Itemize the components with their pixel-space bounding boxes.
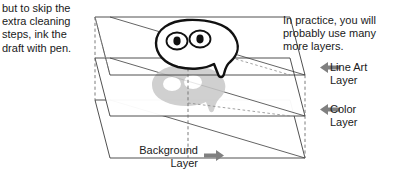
layer-label-line-art: Line Art Layer [330, 61, 367, 87]
line-art-pupil-right [196, 35, 203, 44]
line-art-pupil-left [173, 37, 180, 46]
layer-label-background: Background Layer [88, 144, 198, 170]
diagram-canvas: but to skip the extra cleaning steps, in… [0, 0, 406, 178]
color-blob-eye-right [184, 75, 202, 89]
layer-label-color: Color Layer [330, 103, 358, 129]
note-right-text: In practice, you will probably use many … [283, 14, 376, 54]
note-left-text: but to skip the extra cleaning steps, in… [2, 2, 71, 55]
color-blob-eye-left [163, 77, 181, 91]
